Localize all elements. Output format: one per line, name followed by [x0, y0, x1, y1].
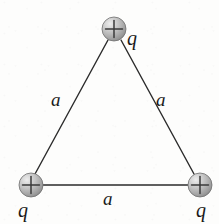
- bottom-right-charge: [188, 173, 212, 197]
- physics-figure-equilateral-triangle-charges: q q q a a a: [0, 0, 219, 224]
- right-side-label: a: [156, 90, 166, 109]
- triangle-edges: [35, 40, 194, 185]
- top-charge-label: q: [127, 28, 137, 48]
- top-charge: [102, 17, 126, 41]
- bottom-left-charge: [19, 173, 43, 197]
- bottom-left-charge-label: q: [18, 200, 28, 220]
- bottom-side-label: a: [103, 189, 113, 208]
- charge-spheres: [19, 17, 212, 197]
- left-side-line: [35, 40, 108, 174]
- left-side-label: a: [51, 90, 61, 109]
- bottom-right-charge-label: q: [196, 200, 206, 220]
